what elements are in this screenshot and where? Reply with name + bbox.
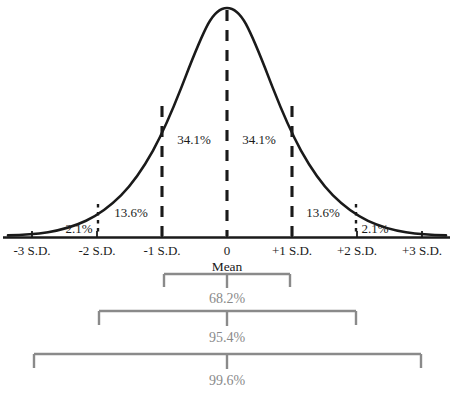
axis-label-plus1sd: +1 S.D. — [272, 244, 312, 257]
sd-dashed-lines — [162, 10, 292, 236]
normal-curve — [8, 8, 446, 235]
region-label-minus1to0: 34.1% — [177, 133, 211, 146]
bracket-95 — [99, 311, 356, 326]
axis-label-plus3sd: +3 S.D. — [402, 244, 442, 257]
bracket-label-95: 95.4% — [209, 331, 245, 345]
axis-label-minus1sd: -1 S.D. — [143, 244, 180, 257]
bracket-68 — [164, 274, 290, 288]
bracket-99 — [34, 354, 421, 369]
chart-canvas — [0, 0, 453, 416]
axis-label-minus3sd: -3 S.D. — [13, 244, 50, 257]
axis-label-plus2sd: +2 S.D. — [337, 244, 377, 257]
bracket-label-68: 68.2% — [209, 292, 245, 306]
region-label-plus1to2: 13.6% — [306, 206, 340, 219]
region-label-minus2to3: 2.1% — [65, 222, 92, 235]
bracket-label-99: 99.6% — [209, 374, 245, 388]
region-label-0toplus1: 34.1% — [242, 133, 276, 146]
axis-label-zero: 0 — [224, 244, 231, 257]
normal-distribution-chart: 2.1% 13.6% 34.1% 34.1% 13.6% 2.1% -3 S.D… — [0, 0, 453, 416]
axis-label-minus2sd: -2 S.D. — [78, 244, 115, 257]
region-label-plus2to3: 2.1% — [361, 222, 388, 235]
region-label-minus1to2: 13.6% — [114, 206, 148, 219]
mean-label: Mean — [212, 260, 243, 274]
